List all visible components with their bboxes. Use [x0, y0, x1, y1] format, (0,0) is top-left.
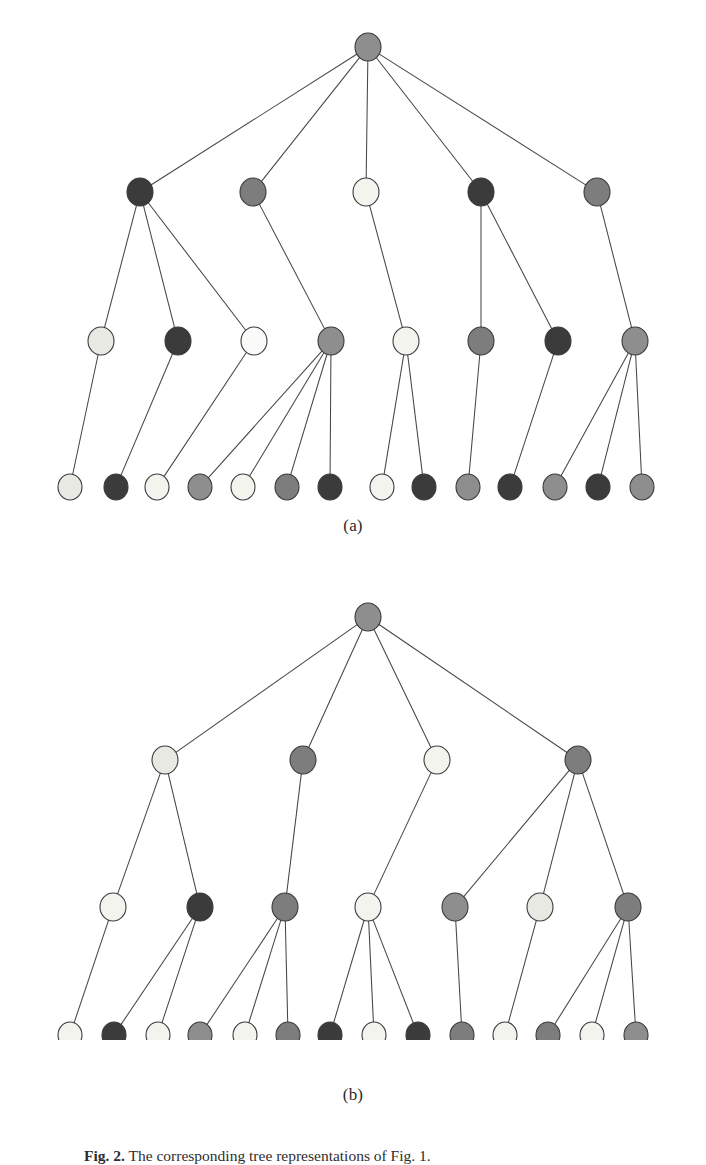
tree-edge — [582, 771, 624, 895]
tree-node — [424, 746, 450, 774]
tree-node — [353, 178, 379, 206]
tree-node — [188, 1022, 212, 1040]
tree-edge — [636, 353, 642, 476]
tree-node — [318, 1022, 342, 1040]
tree-node — [241, 327, 267, 355]
tree-node — [355, 893, 381, 921]
tree-edge — [120, 917, 193, 1026]
tree-edge — [595, 919, 625, 1025]
tree-edge — [206, 917, 278, 1026]
tree-node — [362, 1022, 386, 1040]
tree-node — [630, 474, 654, 500]
tree-edge — [629, 919, 636, 1024]
tree-node — [102, 1022, 126, 1040]
tree-edge — [74, 918, 110, 1024]
tree-node — [450, 1022, 474, 1040]
tree-node — [127, 178, 153, 206]
tree-node — [104, 474, 128, 500]
tree-edges — [72, 53, 641, 478]
tree-edge — [456, 919, 462, 1024]
tree-diagram-b — [0, 570, 706, 1040]
tree-node — [536, 1022, 560, 1040]
tree-node — [565, 746, 591, 774]
tree-edge — [384, 353, 404, 476]
tree-node — [100, 893, 126, 921]
panel-a-label: (a) — [0, 516, 706, 536]
tree-node — [152, 746, 178, 774]
tree-node — [406, 1022, 430, 1040]
tree-edge — [373, 771, 432, 896]
tree-node — [58, 474, 82, 500]
tree-node — [187, 893, 213, 921]
tree-node — [272, 893, 298, 921]
tree-edge — [147, 202, 246, 332]
tree-edge — [285, 919, 287, 1024]
tree-edge — [207, 350, 323, 479]
tree-edge — [487, 203, 553, 331]
tree-node — [498, 474, 522, 500]
tree-edge — [104, 204, 137, 330]
tree-edge — [543, 772, 575, 896]
tree-edge — [249, 351, 325, 477]
tree-edge — [72, 353, 98, 477]
tree-node — [145, 474, 169, 500]
tree-node — [290, 746, 316, 774]
tree-edge — [378, 53, 587, 185]
tree-edge — [407, 353, 422, 476]
tree-edge — [369, 919, 374, 1024]
tree-edge — [469, 353, 480, 476]
tree-nodes — [58, 33, 654, 500]
tree-node — [146, 1022, 170, 1040]
tree-edge — [286, 772, 301, 895]
tree-edge — [175, 624, 358, 753]
tree-node — [393, 327, 419, 355]
tree-edge — [308, 628, 363, 749]
tree-node — [188, 474, 212, 500]
tree-edge — [560, 352, 629, 478]
figure-container: (a) (b) Fig. 2. The corresponding tree r… — [0, 0, 706, 1165]
tree-edge — [369, 204, 403, 330]
tree-node — [545, 327, 571, 355]
tree-node — [493, 1022, 517, 1040]
tree-node — [275, 474, 299, 500]
tree-node — [58, 1022, 82, 1040]
tree-edge — [168, 772, 197, 896]
tree-edge — [120, 352, 173, 477]
tree-edge — [248, 918, 281, 1024]
tree-edge — [366, 59, 368, 180]
tree-edge — [378, 624, 568, 754]
tree-node — [370, 474, 394, 500]
tree-node — [88, 327, 114, 355]
tree-nodes — [58, 603, 648, 1040]
tree-edge — [290, 352, 327, 476]
tree-edge — [554, 917, 622, 1025]
tree-edge — [333, 919, 364, 1025]
tree-panel-a — [0, 0, 706, 560]
tree-edge — [373, 628, 432, 749]
tree-node — [527, 893, 553, 921]
caption-text: The corresponding tree representations o… — [129, 1147, 431, 1164]
figure-caption: Fig. 2. The corresponding tree represent… — [84, 1146, 624, 1165]
tree-edge — [330, 353, 331, 476]
tree-node — [355, 33, 381, 61]
tree-node — [442, 893, 468, 921]
tree-edge — [508, 919, 537, 1025]
tree-node — [586, 474, 610, 500]
tree-node — [318, 327, 344, 355]
tree-node — [240, 178, 266, 206]
tree-node — [165, 327, 191, 355]
tree-node — [233, 1022, 257, 1040]
tree-node — [276, 1022, 300, 1040]
tree-edge — [513, 352, 554, 476]
tree-edge — [375, 56, 473, 182]
panel-b-label: (b) — [0, 1085, 706, 1105]
tree-node — [355, 603, 381, 631]
tree-edge — [259, 203, 326, 331]
tree-edge — [600, 204, 632, 330]
tree-diagram-a — [0, 0, 706, 520]
tree-edge — [150, 53, 358, 185]
tree-node — [624, 1022, 648, 1040]
tree-node — [412, 474, 436, 500]
tree-node — [615, 893, 641, 921]
tree-node — [318, 474, 342, 500]
